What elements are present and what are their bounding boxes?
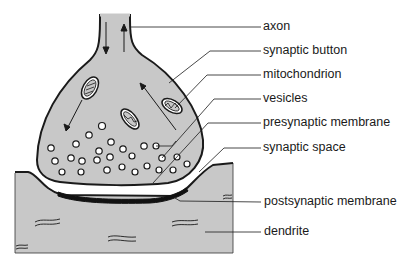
label-dendrite: dendrite [264, 224, 309, 238]
label-postsynaptic-membrane: postsynaptic membrane [264, 194, 397, 208]
label-presynaptic-membrane: presynaptic membrane [263, 115, 390, 129]
synapse-diagram [0, 0, 415, 266]
label-synaptic-space: synaptic space [263, 140, 346, 154]
leader-synaptic-button [169, 51, 261, 83]
label-synaptic-button: synaptic button [263, 43, 347, 57]
label-vesicles: vesicles [263, 91, 307, 105]
label-axon: axon [263, 19, 290, 33]
label-mitochondrion: mitochondrion [263, 67, 342, 81]
